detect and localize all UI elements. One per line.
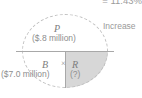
- percent-circle-diagram: = 11.43% P ($.8 million) B ($7.0 million…: [0, 0, 142, 98]
- multiply-operator-icon: ×: [61, 60, 66, 68]
- result-formula: = 11.43%: [60, 0, 142, 7]
- increase-annotation-label: Increase: [103, 22, 136, 31]
- base-value-label: ($7.0 million): [1, 70, 50, 79]
- vertical-divider-line: [65, 51, 66, 88]
- rate-value-label: (?): [70, 70, 80, 79]
- percentage-value-label: ($.8 million): [32, 34, 76, 43]
